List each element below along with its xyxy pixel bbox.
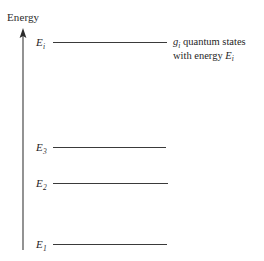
axis-label-energy: Energy <box>7 11 39 24</box>
level-symbol-Ei: E <box>36 36 43 48</box>
energy-level-diagram: Energy Ei E3 E2 E1 gi quantum states wit… <box>0 0 264 261</box>
level-label-E2: E2 <box>36 178 46 190</box>
annotation-E-symbol: E <box>225 50 231 61</box>
annotation-line1-text: quantum states <box>180 36 245 47</box>
level-subscript-E1: 1 <box>43 244 47 253</box>
level-line-E1 <box>53 244 167 245</box>
annotation-quantum-states: gi quantum states with energy Ei <box>173 36 264 63</box>
level-label-E3: E3 <box>36 142 46 154</box>
level-line-E3 <box>53 147 166 148</box>
level-subscript-E2: 2 <box>43 183 47 192</box>
up-arrow-icon <box>14 26 32 254</box>
level-label-Ei: Ei <box>36 37 45 49</box>
level-line-E2 <box>53 183 168 184</box>
annotation-line2: with energy Ei <box>173 50 264 64</box>
annotation-E-subscript: i <box>232 54 234 63</box>
level-label-E1: E1 <box>36 239 46 251</box>
level-symbol-E2: E <box>36 177 43 189</box>
level-line-Ei <box>53 42 167 43</box>
level-subscript-Ei: i <box>43 42 45 51</box>
level-symbol-E3: E <box>36 141 43 153</box>
level-symbol-E1: E <box>36 238 43 250</box>
level-subscript-E3: 3 <box>43 147 47 156</box>
annotation-line2-text: with energy <box>173 50 225 61</box>
